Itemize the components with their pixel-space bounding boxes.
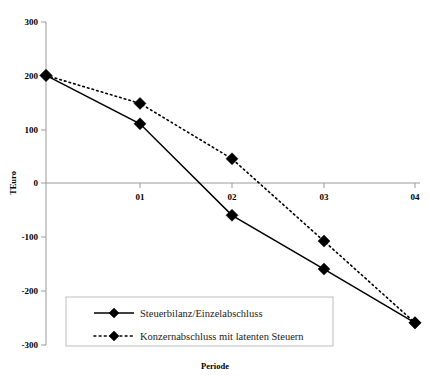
y-tick-label-neg300: -300 [22,340,39,350]
x-tick-label-04: 04 [411,192,421,202]
y-tick-label-100: 100 [25,125,39,135]
legend-label-steuerbilanz: Steuerbilanz/Einzelabschluss [140,308,262,319]
y-tick-label-200: 200 [25,71,39,81]
chart-container: 300 200 100 0 -100 -200 -300 01 02 03 04… [0,0,430,379]
y-axis-title: TEuro [8,171,18,195]
x-tick-label-03: 03 [320,192,330,202]
y-tick-label-neg200: -200 [22,286,39,296]
y-tick-label-0: 0 [34,178,39,188]
y-tick-label-neg100: -100 [22,232,39,242]
x-tick-label-01: 01 [136,192,146,202]
y-tick-label-300: 300 [25,17,39,27]
legend-label-konzernabschluss: Konzernabschluss mit latenten Steuern [140,331,304,342]
x-axis-title: Periode [201,361,229,371]
x-tick-label-02: 02 [228,192,238,202]
line-chart: 300 200 100 0 -100 -200 -300 01 02 03 04… [0,0,430,379]
